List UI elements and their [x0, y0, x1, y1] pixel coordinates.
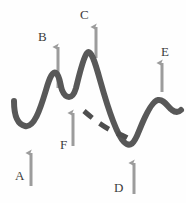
annotation-label-e: E: [161, 45, 169, 58]
main-curve: [14, 52, 181, 144]
figure-container: A B C D E F: [0, 0, 186, 203]
annotation-label-f: F: [60, 138, 67, 151]
curve-diagram-svg: [0, 0, 186, 203]
annotation-label-b: B: [38, 30, 47, 43]
annotation-label-a: A: [15, 169, 24, 182]
annotation-arrow-group: [31, 27, 162, 194]
dashed-curve-segment: [84, 111, 131, 140]
annotation-label-d: D: [114, 181, 123, 194]
annotation-label-c: C: [80, 8, 89, 21]
